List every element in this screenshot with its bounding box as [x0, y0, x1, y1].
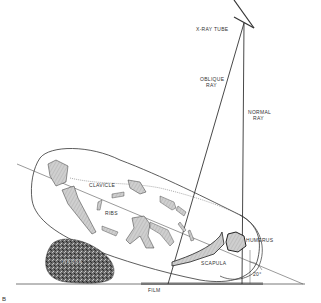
bone-rib-8: [188, 230, 194, 241]
wedge-label: WEDGE: [62, 258, 82, 264]
bone-shoulder-left: [48, 160, 68, 186]
bone-rib-6: [176, 206, 186, 216]
figure-mark: B: [2, 296, 6, 302]
clavicle-label: CLAVICLE: [89, 182, 115, 188]
ribs-label: RIBS: [105, 210, 118, 216]
angle-label: 20°: [253, 271, 261, 277]
bone-rib-1: [112, 192, 124, 198]
humerus-label: HUMERUS: [246, 237, 273, 243]
film-plate: [141, 283, 263, 286]
oblique-ray-label-2: RAY: [206, 82, 217, 88]
bone-humerus: [226, 232, 246, 252]
diagram-canvas: X-RAY TUBE OBLIQUE RAY NORMAL RAY CLAVIC…: [0, 0, 321, 303]
bone-rib-2: [97, 200, 102, 210]
xray-tube-label: X-RAY TUBE: [196, 26, 228, 32]
diagram-drawing: [0, 0, 321, 303]
normal-ray-label-2: RAY: [253, 115, 264, 121]
bone-rib-5: [160, 196, 176, 210]
bone-clavicle: [128, 180, 146, 194]
bone-rib-4: [150, 222, 174, 246]
scapula-label: SCAPULA: [201, 260, 226, 266]
bone-spine: [126, 216, 154, 248]
bone-scapula-left: [62, 186, 96, 234]
film-label: FILM: [148, 287, 161, 293]
bone-rib-3: [102, 226, 118, 236]
